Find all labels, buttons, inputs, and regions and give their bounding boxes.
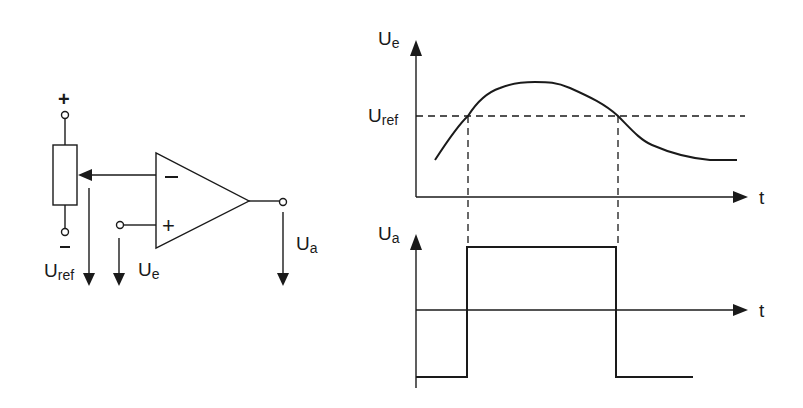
- input-voltage-graph: Ue t Uref: [368, 28, 765, 248]
- pot-resistor-body: [53, 145, 77, 205]
- pot-top-terminal: [62, 112, 69, 119]
- comparator-diagram: + + Uref: [0, 0, 803, 408]
- pot-plus-sign: +: [58, 88, 70, 110]
- ua-arrow-icon: [277, 273, 289, 286]
- ue-x-axis-arrow-icon: [733, 191, 748, 203]
- wiper-arrow-icon: [78, 169, 92, 181]
- opamp-noninverting-sign: +: [162, 213, 175, 238]
- ua-time-label: t: [759, 300, 765, 321]
- uref-label: Uref: [44, 260, 74, 283]
- ue-axis-label: Ue: [378, 28, 400, 51]
- circuit-schematic: + + Uref: [44, 88, 318, 286]
- ua-x-axis-arrow-icon: [733, 304, 748, 316]
- ue-arrow-icon: [113, 273, 125, 286]
- ua-label: Ua: [296, 233, 318, 256]
- output-voltage-graph: Ua t: [378, 223, 765, 388]
- potentiometer: +: [53, 88, 77, 247]
- output-terminal: [280, 199, 287, 206]
- pot-bottom-terminal: [62, 229, 69, 236]
- ue-y-axis-arrow-icon: [410, 40, 422, 56]
- ua-y-axis-arrow-icon: [410, 234, 422, 250]
- uref-arrow-icon: [83, 273, 95, 286]
- opamp: +: [156, 153, 249, 248]
- ue-time-label: t: [759, 187, 765, 208]
- input-terminal: [117, 222, 124, 229]
- uref-level-label: Uref: [368, 105, 398, 128]
- ue-label: Ue: [138, 259, 160, 282]
- ue-curve: [435, 82, 737, 160]
- ua-axis-label: Ua: [378, 223, 400, 246]
- ua-square-wave: [416, 247, 693, 377]
